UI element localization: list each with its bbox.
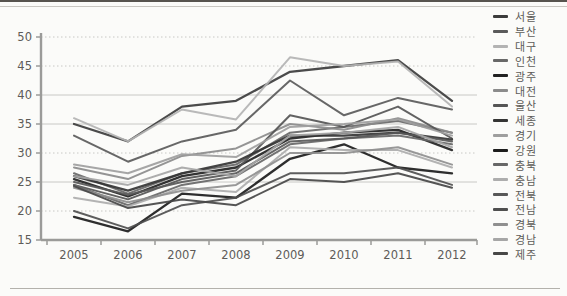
legend-item-11: 충남	[493, 172, 563, 187]
legend-line-swatch	[493, 193, 508, 196]
legend-label: 경기	[515, 127, 536, 143]
legend-line-swatch	[493, 178, 508, 181]
x-axis-label: 2012	[437, 248, 466, 262]
legend-label: 제주	[515, 246, 536, 262]
legend-line-swatch	[493, 104, 508, 107]
legend-item-13: 전남	[493, 202, 563, 217]
legend-item-1: 부산	[493, 24, 563, 39]
legend-item-3: 인천	[493, 54, 563, 69]
x-axis-label: 2011	[383, 248, 412, 262]
legend-label: 부산	[515, 23, 536, 39]
y-axis-label: 25	[17, 175, 32, 189]
legend-line-swatch	[493, 149, 508, 152]
legend-item-14: 경북	[493, 217, 563, 232]
legend-line-swatch	[493, 15, 508, 18]
legend-label: 전북	[515, 187, 536, 203]
legend-item-16: 제주	[493, 247, 563, 262]
legend-line-swatch	[493, 208, 508, 211]
y-axis-label: 15	[17, 233, 32, 247]
legend-line-swatch	[493, 223, 508, 226]
legend-item-15: 경남	[493, 232, 563, 247]
legend-label: 대전	[515, 83, 536, 99]
x-axis-label: 2010	[329, 248, 358, 262]
y-axis-label: 35	[17, 117, 32, 131]
legend-label: 광주	[515, 68, 536, 84]
scanned-page: 5045403530252015200520062007200820092010…	[0, 0, 567, 296]
x-axis-label: 2007	[167, 248, 196, 262]
legend-label: 대구	[515, 38, 536, 54]
x-axis-label: 2008	[221, 248, 250, 262]
x-axis-label: 2005	[59, 248, 88, 262]
y-axis-label: 45	[17, 59, 32, 73]
x-axis-label: 2009	[275, 248, 304, 262]
legend-label: 세종	[515, 112, 536, 128]
legend-line-swatch	[493, 74, 508, 77]
line-chart: 5045403530252015200520062007200820092010…	[0, 0, 567, 296]
legend-item-6: 울산	[493, 98, 563, 113]
y-axis-label: 40	[17, 88, 32, 102]
legend-label: 전남	[515, 201, 536, 217]
legend-line-swatch	[493, 252, 508, 255]
legend-item-10: 충북	[493, 157, 563, 172]
legend-label: 서울	[515, 8, 536, 24]
legend-label: 인천	[515, 53, 536, 69]
legend-label: 충남	[515, 172, 536, 188]
legend-item-12: 전북	[493, 187, 563, 202]
legend-item-9: 강원	[493, 143, 563, 158]
chart-legend: 서울부산대구인천광주대전울산세종경기강원충북충남전북전남경북경남제주	[493, 9, 563, 261]
legend-label: 경북	[515, 216, 536, 232]
legend-label: 경남	[515, 231, 536, 247]
legend-label: 울산	[515, 97, 536, 113]
legend-item-5: 대전	[493, 83, 563, 98]
legend-item-8: 경기	[493, 128, 563, 143]
legend-line-swatch	[493, 59, 508, 62]
y-axis-label: 20	[17, 204, 32, 218]
legend-line-swatch	[493, 238, 508, 241]
y-axis-label: 50	[17, 30, 32, 44]
legend-line-swatch	[493, 45, 508, 48]
legend-item-4: 광주	[493, 68, 563, 83]
legend-line-swatch	[493, 30, 508, 33]
legend-item-7: 세종	[493, 113, 563, 128]
x-axis-label: 2006	[113, 248, 142, 262]
legend-line-swatch	[493, 89, 508, 92]
legend-line-swatch	[493, 134, 508, 137]
legend-item-0: 서울	[493, 9, 563, 24]
legend-label: 충북	[515, 157, 536, 173]
legend-item-2: 대구	[493, 39, 563, 54]
legend-line-swatch	[493, 163, 508, 166]
y-axis-label: 30	[17, 146, 32, 160]
page-bottom-rule	[10, 288, 560, 289]
legend-line-swatch	[493, 119, 508, 122]
legend-label: 강원	[515, 142, 536, 158]
